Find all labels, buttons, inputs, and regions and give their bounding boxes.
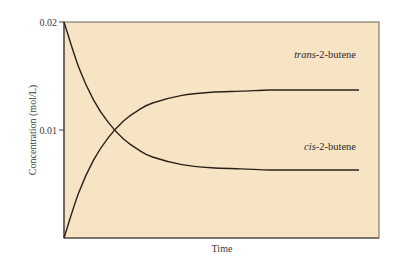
- y-tick-label: 0.01: [40, 125, 58, 136]
- trans-2-butene-label: trans-2-butene: [294, 49, 356, 60]
- x-axis-label: Time: [212, 243, 233, 254]
- y-axis-label: Concentration (mol/L): [27, 85, 39, 175]
- cis-2-butene-label: cis-2-butene: [304, 141, 356, 152]
- concentration-chart: 0.020.01 trans-2-butene cis-2-butene Con…: [0, 0, 396, 259]
- y-tick-label: 0.02: [40, 17, 58, 28]
- y-ticks: 0.020.01: [40, 17, 65, 136]
